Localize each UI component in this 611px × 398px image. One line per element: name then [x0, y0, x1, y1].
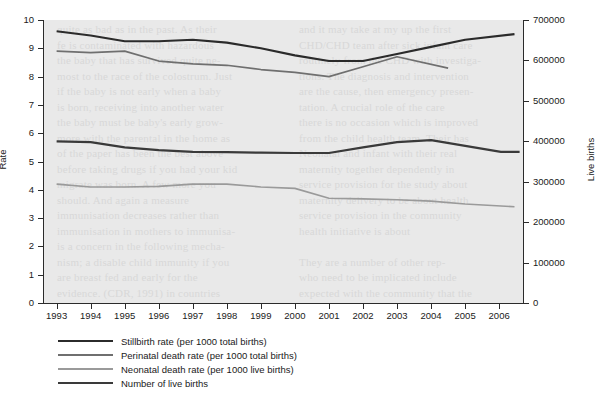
y-axis-left-tick-label: 3 [29, 212, 34, 223]
legend-line-swatch [58, 376, 113, 390]
y-axis-right-tick [524, 303, 529, 304]
plot-area: quite as bad as in the past. As their fe… [43, 20, 523, 303]
y-axis-right-line [523, 20, 524, 304]
y-axis-right-tick-label: 300000 [533, 176, 565, 187]
y-axis-left-tick [38, 218, 43, 219]
x-axis-tick [397, 304, 398, 309]
x-axis-tick-label: 2006 [479, 310, 519, 321]
legend-item: Perinatal death rate (per 1000 total bir… [58, 348, 388, 362]
y-axis-left-tick [38, 77, 43, 78]
x-axis-tick [499, 304, 500, 309]
y-axis-left-tick [38, 275, 43, 276]
y-axis-right-tick [524, 263, 529, 264]
y-axis-left-tick-label: 10 [23, 14, 34, 25]
legend-item: Neonatal death rate (per 1000 live birth… [58, 362, 388, 376]
x-axis-line [43, 303, 524, 304]
y-axis-right-tick [524, 141, 529, 142]
y-axis-right-title: Live births [585, 138, 596, 181]
y-axis-left-title: Rate [0, 149, 8, 169]
y-axis-right-tick [524, 222, 529, 223]
legend-label: Perinatal death rate (per 1000 total bir… [113, 350, 297, 361]
x-axis-tick [261, 304, 262, 309]
x-axis-tick [227, 304, 228, 309]
x-axis-tick [465, 304, 466, 309]
x-axis-tick [363, 304, 364, 309]
y-axis-right-tick-label: 700000 [533, 14, 565, 25]
y-axis-left-tick [38, 105, 43, 106]
y-axis-left-tick-label: 7 [29, 99, 34, 110]
y-axis-right-tick-label: 600000 [533, 54, 565, 65]
y-axis-right-tick-label: 200000 [533, 216, 565, 227]
legend-line-swatch [58, 348, 113, 362]
y-axis-left-tick [38, 246, 43, 247]
x-axis-tick [125, 304, 126, 309]
y-axis-left-tick-label: 6 [29, 127, 34, 138]
y-axis-left-tick-label: 4 [29, 184, 34, 195]
y-axis-left-tick-label: 2 [29, 240, 34, 251]
y-axis-left-line [43, 20, 44, 304]
y-axis-right-tick [524, 20, 529, 21]
x-axis-tick [431, 304, 432, 309]
x-axis-tick [159, 304, 160, 309]
series-line [57, 140, 520, 153]
y-axis-left-tick [38, 20, 43, 21]
legend-item: Number of live births [58, 376, 388, 390]
y-axis-left-tick-label: 8 [29, 71, 34, 82]
chart-page: quite as bad as in the past. As their fe… [0, 0, 611, 398]
series-lines [43, 20, 523, 303]
legend-line-swatch [58, 334, 113, 348]
y-axis-left-tick [38, 303, 43, 304]
y-axis-left-tick-label: 9 [29, 42, 34, 53]
chart-legend: Stillbirth rate (per 1000 total births)P… [58, 334, 388, 390]
series-line [57, 31, 515, 61]
y-axis-right-tick [524, 60, 529, 61]
y-axis-right-tick [524, 101, 529, 102]
x-axis-tick [329, 304, 330, 309]
y-axis-left-tick-label: 1 [29, 269, 34, 280]
x-axis-tick [295, 304, 296, 309]
legend-label: Neonatal death rate (per 1000 live birth… [113, 364, 294, 375]
legend-item: Stillbirth rate (per 1000 total births) [58, 334, 388, 348]
y-axis-right-tick [524, 182, 529, 183]
y-axis-left-tick [38, 190, 43, 191]
x-axis-tick [193, 304, 194, 309]
legend-label: Number of live births [113, 378, 208, 389]
y-axis-right-tick-label: 400000 [533, 135, 565, 146]
y-axis-right-tick-label: 500000 [533, 95, 565, 106]
y-axis-left-tick [38, 48, 43, 49]
y-axis-left-tick-label: 0 [29, 297, 34, 308]
series-line [57, 184, 515, 207]
legend-label: Stillbirth rate (per 1000 total births) [113, 336, 267, 347]
x-axis-tick [91, 304, 92, 309]
x-axis-tick [57, 304, 58, 309]
y-axis-right-tick-label: 0 [533, 297, 538, 308]
y-axis-left-tick-label: 5 [29, 156, 34, 167]
y-axis-left-tick [38, 162, 43, 163]
legend-line-swatch [58, 362, 113, 376]
y-axis-left-tick [38, 133, 43, 134]
y-axis-right-tick-label: 100000 [533, 257, 565, 268]
